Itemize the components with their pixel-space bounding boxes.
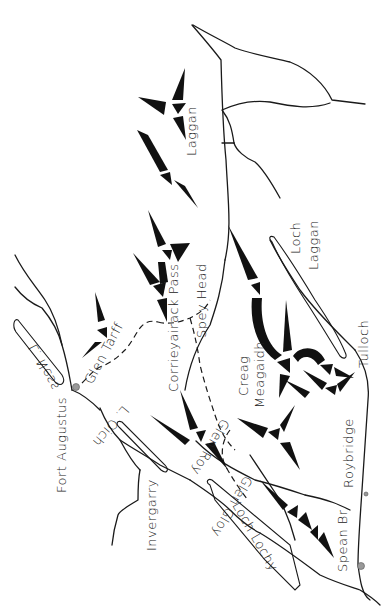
map-canvas: Laggan Loch Laggan Tulloch Spey Head Cre… <box>0 0 385 611</box>
town-fort-augustus <box>73 384 80 391</box>
label-fort-augustus: Fort Augustus <box>54 397 69 493</box>
label-meagaidh: Meagaidh <box>252 341 267 408</box>
label-tulloch: Tulloch <box>356 320 371 368</box>
labels: Laggan Loch Laggan Tulloch Spey Head Cre… <box>25 106 371 574</box>
label-loch-laggan-2: Laggan <box>306 220 321 270</box>
label-creag: Creag <box>236 356 251 396</box>
ridges <box>82 68 355 558</box>
label-l-ness: L. Ness <box>25 342 62 393</box>
label-spean-br: Spean Br. <box>335 506 350 572</box>
town-spean-bridge <box>358 563 365 570</box>
label-spey-head: Spey Head <box>194 263 209 338</box>
label-loch-lochy: Loch Lochy <box>229 499 281 574</box>
label-invergarry: Invergarry <box>144 479 159 551</box>
label-roybridge: Roybridge <box>341 418 356 488</box>
town-roybridge <box>364 492 368 496</box>
label-loch-laggan-1: Loch <box>288 222 303 254</box>
label-corrieyairack: Corrieyairack Pass <box>166 264 181 393</box>
label-laggan: Laggan <box>184 106 199 156</box>
